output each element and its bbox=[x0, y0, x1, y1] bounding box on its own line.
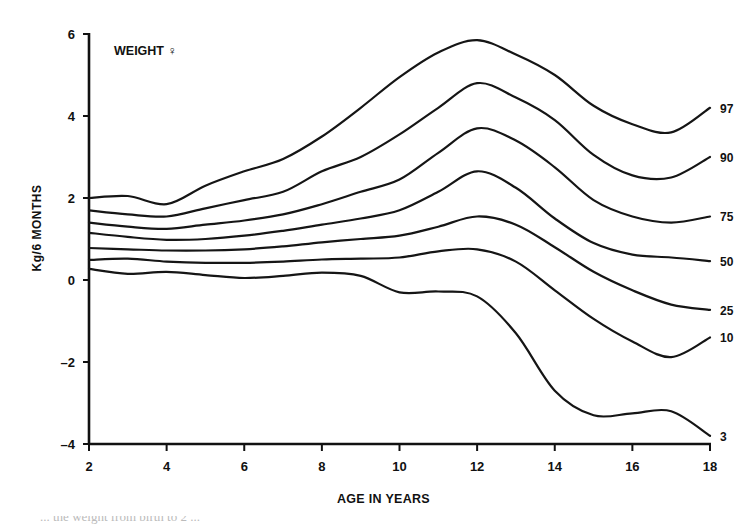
label-p10: 10 bbox=[720, 331, 734, 345]
y-tick-label: 0 bbox=[68, 273, 75, 288]
chart-title: WEIGHT ♀ bbox=[114, 44, 177, 58]
curve-p90 bbox=[89, 83, 710, 217]
label-p3: 3 bbox=[720, 430, 727, 444]
y-tick-label: 6 bbox=[68, 27, 75, 42]
label-p50: 50 bbox=[720, 255, 734, 269]
curve-p10 bbox=[89, 249, 710, 357]
x-tick-label: 14 bbox=[548, 459, 563, 474]
caption-text: ... the weight from birth to 2 ... bbox=[40, 516, 200, 524]
percentile-labels: 9790755025103 bbox=[720, 102, 734, 444]
x-tick-label: 18 bbox=[703, 459, 717, 474]
y-tick-label: –2 bbox=[61, 355, 75, 370]
percentile-curves bbox=[89, 40, 710, 436]
curve-p50 bbox=[89, 171, 710, 261]
x-axis-label: AGE IN YEARS bbox=[337, 492, 430, 506]
y-axis-label: Kg/6 MONTHS bbox=[30, 185, 44, 272]
label-p25: 25 bbox=[720, 304, 734, 318]
x-tick-label: 16 bbox=[625, 459, 639, 474]
y-tick-label: 2 bbox=[68, 191, 75, 206]
y-tick-label: –4 bbox=[61, 437, 76, 452]
x-ticks: 24681012141618 bbox=[85, 444, 717, 474]
label-p75: 75 bbox=[720, 210, 734, 224]
x-tick-label: 10 bbox=[392, 459, 406, 474]
y-ticks: 6420–2–4 bbox=[61, 27, 89, 452]
y-tick-label: 4 bbox=[68, 109, 76, 124]
x-tick-label: 12 bbox=[470, 459, 484, 474]
label-p97: 97 bbox=[720, 102, 734, 116]
curve-p3 bbox=[89, 269, 710, 436]
x-tick-label: 4 bbox=[163, 459, 171, 474]
axes bbox=[88, 33, 711, 444]
x-tick-label: 8 bbox=[318, 459, 325, 474]
chart: WEIGHT ♀ Kg/6 MONTHS AGE IN YEARS 6420–2… bbox=[0, 0, 755, 524]
x-tick-label: 2 bbox=[85, 459, 92, 474]
figure-caption-partial: ... the weight from birth to 2 ... bbox=[0, 516, 755, 524]
x-tick-label: 6 bbox=[241, 459, 248, 474]
label-p90: 90 bbox=[720, 151, 734, 165]
